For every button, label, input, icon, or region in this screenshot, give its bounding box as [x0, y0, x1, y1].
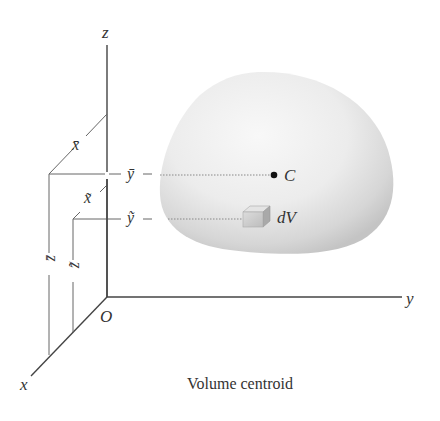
x-axis-label: x	[20, 376, 28, 393]
centroid-label: C	[284, 167, 295, 184]
origin-label: O	[100, 308, 112, 325]
y-axis-label: y	[406, 290, 414, 307]
z-tilde-label: z̃	[66, 262, 82, 268]
diagram-caption: Volume centroid	[187, 376, 293, 392]
z-bar-label: z̄	[42, 255, 58, 261]
x-tilde-label: x̃	[84, 190, 91, 206]
diagram-canvas	[0, 0, 440, 421]
volume-element-cube	[243, 206, 270, 227]
centroid-point	[271, 172, 278, 179]
x-axis	[31, 297, 107, 376]
y-bar-label: ȳ	[127, 166, 134, 182]
volume-element-label: dV	[277, 209, 296, 226]
axis-gap	[105, 176, 109, 179]
x-bar-label: x̄	[72, 137, 79, 153]
z-axis-label: z	[102, 24, 109, 41]
y-tilde-label: ỹ	[127, 210, 134, 226]
volume-centroid-diagram: z y x O x̄ ȳ z̄ C x̃ ỹ z̃ dV Volume cent…	[0, 0, 440, 421]
